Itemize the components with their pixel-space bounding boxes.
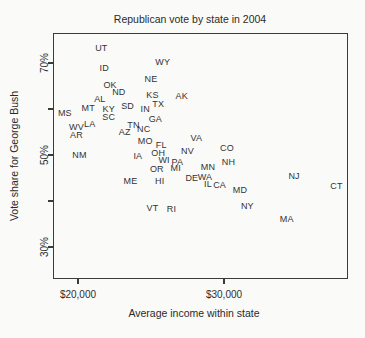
- x-tick-mark: [223, 279, 225, 284]
- data-point-state-label: AL: [94, 94, 105, 103]
- data-point-state-label: MO: [138, 137, 153, 146]
- data-point-state-label: NE: [145, 74, 158, 83]
- data-point-state-label: NH: [222, 157, 235, 166]
- x-tick-label: $20,000: [60, 289, 96, 300]
- data-point-state-label: MT: [81, 103, 94, 112]
- x-tick-mark: [77, 279, 79, 284]
- data-point-state-label: ME: [124, 177, 138, 186]
- data-point-state-label: CT: [330, 181, 342, 190]
- y-tick-mark: [48, 200, 53, 202]
- x-axis-label: Average income within state: [128, 307, 259, 319]
- data-point-state-label: AR: [70, 131, 83, 140]
- data-point-state-label: MI: [171, 164, 181, 173]
- data-point-state-label: CO: [220, 143, 234, 152]
- data-point-state-label: MD: [233, 185, 247, 194]
- data-point-state-label: UT: [95, 43, 107, 52]
- y-axis-label: Vote share for George Bush: [8, 91, 20, 221]
- data-point-state-label: NM: [72, 150, 86, 159]
- x-tick-label: $30,000: [206, 289, 242, 300]
- data-point-state-label: HI: [155, 177, 164, 186]
- data-point-state-label: LA: [84, 120, 95, 129]
- data-point-state-label: SD: [121, 101, 134, 110]
- y-tick-label: 50%: [39, 145, 50, 165]
- data-point-state-label: ND: [112, 87, 125, 96]
- data-point-state-label: NV: [181, 146, 194, 155]
- y-tick-mark: [48, 108, 53, 110]
- data-point-state-label: VT: [146, 203, 158, 212]
- chart-title: Republican vote by state in 2004: [114, 13, 266, 25]
- y-tick-label: 30%: [39, 237, 50, 257]
- data-point-state-label: CA: [213, 180, 226, 189]
- data-point-state-label: NY: [241, 201, 254, 210]
- data-point-state-label: ID: [100, 63, 109, 72]
- data-point-state-label: OR: [150, 164, 164, 173]
- data-point-state-label: AK: [175, 91, 187, 100]
- data-point-state-label: DE: [185, 173, 198, 182]
- data-point-state-label: AZ: [119, 127, 131, 136]
- scatter-plot-figure: Republican vote by state in 2004 Vote sh…: [0, 0, 365, 338]
- data-point-state-label: VA: [190, 134, 202, 143]
- data-point-state-label: TX: [152, 99, 164, 108]
- data-point-state-label: SC: [102, 112, 115, 121]
- data-point-state-label: MN: [201, 162, 215, 171]
- data-point-state-label: MA: [280, 214, 294, 223]
- data-point-state-label: NC: [137, 124, 150, 133]
- plot-frame: [53, 33, 348, 279]
- data-point-state-label: MS: [58, 109, 72, 118]
- data-point-state-label: IN: [140, 104, 149, 113]
- data-point-state-label: WY: [155, 57, 170, 66]
- data-point-state-label: IA: [133, 151, 142, 160]
- data-point-state-label: IL: [204, 179, 212, 188]
- y-tick-label: 70%: [39, 53, 50, 73]
- data-point-state-label: RI: [167, 204, 176, 213]
- data-point-state-label: NJ: [288, 172, 299, 181]
- data-point-state-label: GA: [149, 114, 162, 123]
